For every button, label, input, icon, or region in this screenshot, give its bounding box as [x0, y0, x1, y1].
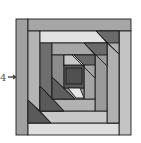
strip-left-outer	[16, 19, 28, 135]
strip-right-4	[84, 65, 95, 99]
strip-right-2-cut	[107, 43, 119, 123]
center-inner	[66, 68, 82, 84]
strip-right-3	[95, 55, 107, 111]
quilt-block	[16, 19, 131, 135]
strip-right-outer	[119, 31, 131, 135]
strip-bottom-outer	[28, 123, 119, 135]
quilt-block-diagram: 4	[0, 0, 141, 143]
strip-top-outer	[28, 19, 131, 31]
strip-bottom-2	[40, 111, 107, 123]
pointer-label: 4	[0, 72, 6, 83]
